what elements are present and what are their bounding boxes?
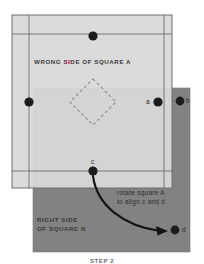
- dot-top: [88, 31, 97, 40]
- point-label-b: b: [186, 97, 190, 104]
- figure-caption: STEP 2: [0, 258, 204, 264]
- dot-b: [176, 97, 185, 106]
- square-b-label: RIGHT SIDE OF SQUARE B: [37, 216, 86, 233]
- square-b-label-line1: RIGHT SIDE: [37, 216, 86, 225]
- square-b-label-line2: OF SQUARE B: [37, 225, 86, 234]
- dot-d: [171, 226, 180, 235]
- point-label-c: c: [91, 158, 95, 165]
- dot-c: [88, 166, 97, 175]
- point-label-a: a: [146, 98, 150, 105]
- rotate-instruction-line2: to align c and d: [117, 198, 165, 207]
- square-a-label: WRONG SIDE OF SQUARE A: [34, 58, 131, 65]
- dot-left: [24, 97, 33, 106]
- rotate-instruction: rotate square A to align c and d: [117, 189, 165, 206]
- diagram-svg: [0, 0, 204, 264]
- dot-a: [153, 97, 162, 106]
- point-label-d: d: [182, 226, 186, 233]
- figure-canvas: WRONG SIDE OF SQUARE A RIGHT SIDE OF SQU…: [0, 0, 204, 264]
- rotate-instruction-line1: rotate square A: [117, 189, 165, 198]
